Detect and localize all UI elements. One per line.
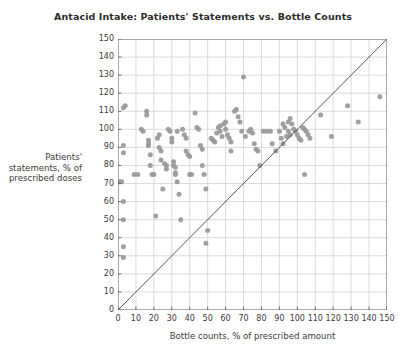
y-tick-label: 50 (86, 216, 114, 224)
scatter-point (270, 141, 275, 146)
scatter-point (289, 121, 294, 126)
y-tick-label: 80 (86, 161, 114, 169)
x-tick-label: 40 (185, 314, 195, 324)
scatter-point (223, 120, 228, 125)
x-axis-title: Bottle counts, % of prescribed amount (118, 331, 387, 341)
y-tick-label: 120 (86, 89, 114, 97)
y-axis-title: Patients' statements, % of prescribed do… (8, 152, 82, 184)
x-tick-label: 10 (131, 314, 141, 324)
identity-reference-line (118, 39, 387, 310)
scatter-point (176, 192, 181, 197)
scatter-point (241, 74, 246, 79)
scatter-point (277, 129, 282, 134)
y-tick-label: 70 (86, 180, 114, 188)
x-axis-tick-labels: 0102030405060708090100110120130140150 (118, 314, 387, 326)
scatter-point (200, 163, 205, 168)
x-tick-label: 140 (361, 314, 376, 324)
x-tick-label: 130 (343, 314, 358, 324)
scatter-point (178, 217, 183, 222)
scatter-point (159, 149, 164, 154)
scatter-point (202, 172, 207, 177)
x-tick-label: 70 (238, 314, 248, 324)
scatter-points (118, 74, 382, 260)
chart-figure: Antacid Intake: Patients' Statements vs.… (0, 0, 406, 355)
scatter-point (282, 125, 287, 130)
scatter-point (239, 129, 244, 134)
scatter-point (121, 255, 126, 260)
scatter-point (175, 179, 180, 184)
scatter-plot-svg (118, 39, 387, 310)
x-tick-label: 30 (167, 314, 177, 324)
y-tick-label: 40 (86, 234, 114, 242)
scatter-point (173, 165, 178, 170)
scatter-point (212, 139, 217, 144)
scatter-point (200, 147, 205, 152)
scatter-point (121, 244, 126, 249)
scatter-point (121, 199, 126, 204)
scatter-point (377, 94, 382, 99)
y-tick-label: 150 (86, 35, 114, 43)
y-axis-title-line-1: Patients' (8, 152, 82, 163)
scatter-point (169, 139, 174, 144)
scatter-point (189, 172, 194, 177)
scatter-point (164, 167, 169, 172)
y-axis-tick-labels: 0102030405060708090100110120130140150 (86, 39, 114, 310)
y-tick-label: 10 (86, 288, 114, 296)
scatter-point (345, 103, 350, 108)
y-tick-label: 60 (86, 198, 114, 206)
scatter-point (318, 112, 323, 117)
y-tick-label: 110 (86, 107, 114, 115)
scatter-point (255, 149, 260, 154)
scatter-point (153, 214, 158, 219)
y-tick-label: 0 (86, 306, 114, 314)
x-tick-label: 0 (115, 314, 120, 324)
scatter-point (288, 116, 293, 121)
x-tick-label: 100 (290, 314, 305, 324)
scatter-point (203, 186, 208, 191)
scatter-point (148, 163, 153, 168)
scatter-point (175, 129, 180, 134)
scatter-point (236, 114, 241, 119)
scatter-point (268, 129, 273, 134)
scatter-point (146, 143, 151, 148)
scatter-point (220, 134, 225, 139)
scatter-point (356, 120, 361, 125)
y-tick-label: 130 (86, 71, 114, 79)
plot-area (118, 39, 387, 310)
x-tick-label: 20 (149, 314, 159, 324)
scatter-point (159, 158, 164, 163)
x-tick-label: 110 (308, 314, 323, 324)
scatter-point (121, 150, 126, 155)
scatter-point (180, 127, 185, 132)
scatter-point (218, 129, 223, 134)
scatter-point (157, 132, 162, 137)
scatter-point (203, 241, 208, 246)
x-tick-label: 80 (256, 314, 266, 324)
y-tick-label: 140 (86, 53, 114, 61)
scatter-point (302, 172, 307, 177)
scatter-point (237, 120, 242, 125)
scatter-point (228, 139, 233, 144)
scatter-point (121, 217, 126, 222)
x-tick-label: 50 (203, 314, 213, 324)
scatter-point (193, 111, 198, 116)
x-tick-label: 120 (326, 314, 341, 324)
scatter-point (228, 149, 233, 154)
scatter-point (135, 172, 140, 177)
y-tick-label: 30 (86, 252, 114, 260)
scatter-point (151, 172, 156, 177)
scatter-point (298, 138, 303, 143)
scatter-point (196, 127, 201, 132)
y-axis-title-line-2: statements, % of (8, 163, 82, 174)
x-tick-label: 90 (274, 314, 284, 324)
scatter-point (121, 143, 126, 148)
scatter-point (250, 130, 255, 135)
scatter-point (148, 152, 153, 157)
scatter-point (307, 136, 312, 141)
scatter-point (144, 112, 149, 117)
scatter-point (329, 134, 334, 139)
scatter-point (243, 134, 248, 139)
x-tick-label: 60 (221, 314, 231, 324)
scatter-point (160, 186, 165, 191)
scatter-point (184, 136, 189, 141)
